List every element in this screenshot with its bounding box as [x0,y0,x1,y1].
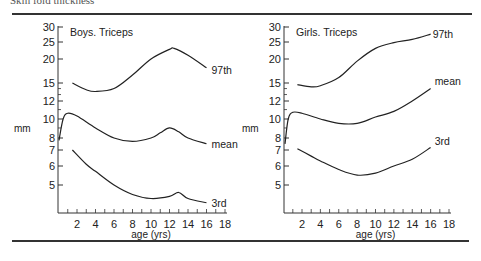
x-tick-label: 6 [336,218,342,230]
x-axis-label: age (yrs) [131,229,170,240]
x-tick-label: 6 [111,218,117,230]
y-tick-label: 12 [43,95,55,107]
x-tick-label: 2 [74,218,80,230]
y-tick-label: 25 [43,36,55,48]
series-label-3rd: 3rd [435,135,450,147]
series-label-mean: mean [435,75,461,87]
charts-canvas: 3025201512108765mmBoys. Triceps246810121… [0,0,481,261]
x-tick-label: 16 [425,218,437,230]
x-tick-label: 4 [317,218,323,230]
chart-title: Girls. Triceps [296,26,357,38]
series-line-3rd [72,150,206,203]
series-line-mean [285,89,431,144]
y-axis-label: mm [14,123,31,134]
x-tick-label: 18 [219,218,231,230]
y-tick-label: 8 [275,132,281,144]
x-tick-label: 14 [182,218,194,230]
y-tick-label: 7 [275,144,281,156]
series-line-3rd [297,147,430,175]
y-tick-label: 6 [275,160,281,172]
series-label-97th: 97th [212,64,233,76]
y-tick-label: 25 [269,36,281,48]
x-tick-label: 16 [200,218,212,230]
series-label-mean: mean [212,138,238,150]
y-tick-label: 6 [49,160,55,172]
y-tick-label: 7 [49,144,55,156]
series-line-mean [59,113,207,144]
y-axis-label: mm [242,123,259,134]
y-tick-label: 5 [49,179,55,191]
y-tick-label: 20 [43,53,55,65]
y-tick-label: 10 [43,113,55,125]
y-tick-label: 15 [269,77,281,89]
y-tick-label: 8 [49,132,55,144]
chart-girls-triceps: 3025201512108765mmGirls. Triceps24681012… [242,21,461,240]
y-tick-label: 30 [43,21,55,33]
y-tick-label: 30 [269,21,281,33]
x-tick-label: 2 [299,218,305,230]
series-label-3rd: 3rd [212,197,227,209]
x-tick-label: 18 [443,218,455,230]
y-tick-label: 15 [43,77,55,89]
y-tick-label: 10 [269,113,281,125]
chart-boys-triceps: 3025201512108765mmBoys. Triceps246810121… [14,21,238,240]
series-line-97th [72,48,206,92]
y-tick-label: 12 [269,95,281,107]
series-line-97th [297,34,430,87]
y-tick-label: 5 [275,179,281,191]
y-tick-label: 20 [269,53,281,65]
x-tick-label: 4 [92,218,98,230]
chart-title: Boys. Triceps [70,26,133,38]
x-axis-label: age (yrs) [356,229,395,240]
series-label-97th: 97th [433,28,454,40]
x-tick-label: 14 [406,218,418,230]
